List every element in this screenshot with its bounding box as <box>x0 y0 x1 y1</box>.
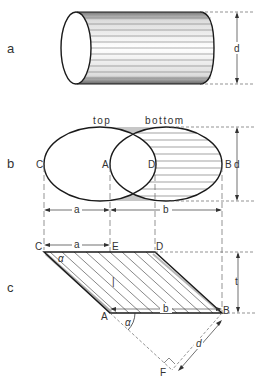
point-b-b: B <box>225 159 232 170</box>
part-c-parallelogram: c a C E D A B F α <box>7 239 255 378</box>
part-b-ellipses: b top bottom C A <box>7 115 255 216</box>
geometry-diagram: a d b top bottom <box>0 0 259 381</box>
cylinder-end-ellipse <box>61 12 91 84</box>
point-f-c: F <box>160 367 166 378</box>
point-d-b: D <box>148 159 155 170</box>
part-b-label: b <box>7 156 14 171</box>
bottom-label: bottom <box>145 115 185 126</box>
dimension-d-b-label: d <box>234 159 240 170</box>
dimension-b-b-label: b <box>163 204 169 215</box>
right-angle-mark <box>164 358 175 364</box>
angle-alpha-small-label: α <box>58 253 64 264</box>
line-a-f <box>110 313 172 370</box>
point-c-b: C <box>36 159 43 170</box>
inner-t-mark: | <box>112 276 115 287</box>
dimension-d-label: d <box>234 43 240 54</box>
point-a-b: A <box>102 159 109 170</box>
part-a-label: a <box>7 41 15 56</box>
top-label: top <box>93 115 111 126</box>
dimension-b-c-label: b <box>163 303 169 314</box>
dimension-a-c-label: a <box>74 239 80 250</box>
angle-alpha-label: α <box>125 317 131 328</box>
point-b-c: B <box>223 305 230 316</box>
point-c-c: C <box>35 241 42 252</box>
point-d-c: D <box>156 241 163 252</box>
dimension-a-b-label: a <box>74 204 80 215</box>
dimension-t-label: t <box>235 276 238 287</box>
part-a-cylinder: a d <box>7 12 255 84</box>
point-e-c: E <box>112 241 119 252</box>
point-a-c: A <box>101 311 108 322</box>
part-c-label: c <box>7 280 14 295</box>
dimension-d-c-label: d <box>196 338 202 349</box>
